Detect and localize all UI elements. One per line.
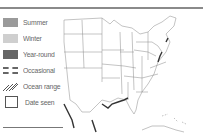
legend-item-summer: Summer bbox=[3, 14, 65, 30]
occasional-dashed-icon bbox=[3, 67, 18, 74]
top-rule bbox=[0, 7, 203, 9]
legend-label: Occasional bbox=[23, 66, 55, 75]
legend-label: Ocean range bbox=[23, 82, 60, 91]
winter-swatch-icon bbox=[3, 34, 18, 43]
legend-item-date-seen: Date seen bbox=[3, 94, 65, 110]
map-legend: Summer Winter Year-round Occasional Ocea… bbox=[3, 14, 65, 110]
summer-swatch-icon bbox=[3, 18, 18, 27]
us-map bbox=[62, 12, 203, 136]
year-round-swatch-icon bbox=[3, 50, 18, 59]
legend-label: Date seen bbox=[25, 98, 54, 107]
top-bar bbox=[0, 0, 203, 9]
date-seen-box-icon bbox=[5, 96, 18, 108]
legend-label: Summer bbox=[23, 18, 48, 27]
legend-item-occasional: Occasional bbox=[3, 62, 65, 78]
legend-label: Winter bbox=[23, 34, 42, 43]
legend-item-ocean-range: Ocean range bbox=[3, 78, 65, 94]
legend-item-winter: Winter bbox=[3, 30, 65, 46]
legend-divider bbox=[3, 127, 63, 128]
legend-item-year-round: Year-round bbox=[3, 46, 65, 62]
legend-label: Year-round bbox=[23, 50, 55, 59]
ocean-range-hatch-icon bbox=[3, 82, 18, 91]
